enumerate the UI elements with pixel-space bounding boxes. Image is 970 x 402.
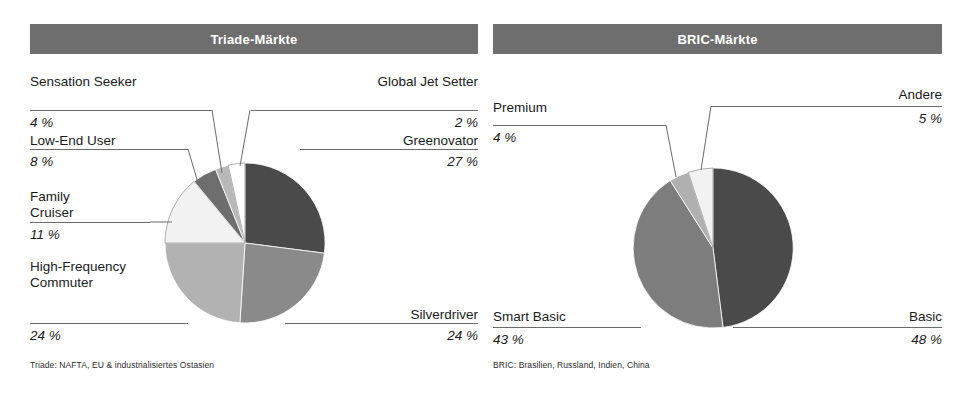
value-global-jet-setter: 2 %: [455, 113, 478, 131]
label-pct: 8 %: [30, 152, 53, 170]
label-name: Silverdriver: [410, 307, 478, 323]
pie-slice-silverdriver: [240, 243, 325, 323]
label-name: High-Frequency Commuter: [30, 259, 142, 290]
label-pct: 27 %: [447, 152, 478, 170]
value-silverdriver: 24 %: [447, 326, 478, 344]
value-andere: 5 %: [919, 109, 942, 127]
rule-high-frequency-commuter: [30, 323, 188, 324]
value-high-frequency-commuter: 24 %: [30, 326, 61, 344]
label-pct: 5 %: [919, 109, 942, 127]
label-andere: Andere: [898, 87, 942, 103]
rule-premium: [493, 125, 666, 126]
label-pct: 2 %: [455, 113, 478, 131]
label-name: Family Cruiser: [30, 189, 108, 220]
label-global-jet-setter: Global Jet Setter: [377, 74, 478, 90]
pie-svg-bric: [485, 0, 970, 402]
rule-low-end-user: [30, 149, 188, 150]
label-name: Premium: [493, 100, 547, 116]
rule-smart-basic: [493, 327, 641, 328]
label-high-frequency-commuter: High-Frequency Commuter: [30, 259, 142, 290]
label-name: Sensation Seeker: [30, 74, 137, 90]
value-premium: 4 %: [493, 128, 516, 146]
pie-chart-triade: Sensation Seeker 4 % Low-End User 8 % Fa…: [0, 0, 485, 402]
label-pct: 43 %: [493, 330, 524, 348]
rule-greenovator: [300, 149, 478, 150]
label-basic: Basic: [909, 309, 942, 325]
label-premium: Premium: [493, 100, 547, 116]
label-pct: 11 %: [30, 225, 60, 243]
value-low-end-user: 8 %: [30, 152, 53, 170]
value-family-cruiser: 11 %: [30, 225, 60, 243]
rule-family-cruiser: [30, 222, 150, 223]
rule-basic: [733, 327, 942, 328]
pie-slice-greenovator: [245, 163, 325, 253]
label-greenovator: Greenovator: [403, 133, 478, 149]
rule-sensation-seeker: [30, 110, 212, 111]
label-silverdriver: Silverdriver: [410, 307, 478, 323]
label-name: Greenovator: [403, 133, 478, 149]
label-family-cruiser: Family Cruiser: [30, 189, 108, 220]
leader-lines-bric: [666, 106, 711, 177]
footnote-triade: Triade: NAFTA, EU & industrialisiertes O…: [30, 360, 214, 370]
chart-panel-bric: BRIC-Märkte Premium 4 %: [485, 0, 970, 402]
label-pct: 48 %: [911, 330, 942, 348]
label-pct: 4 %: [30, 113, 53, 131]
pie-slice-basic: [713, 168, 793, 327]
label-pct: 4 %: [493, 128, 516, 146]
pie-slice-high-frequency-commuter: [165, 243, 245, 323]
value-sensation-seeker: 4 %: [30, 113, 53, 131]
rule-silverdriver: [285, 323, 478, 324]
label-name: Low-End User: [30, 133, 116, 149]
label-name: Andere: [898, 87, 942, 103]
pie-chart-bric: Premium 4 % Smart Basic 43 % Andere 5 % …: [485, 0, 970, 402]
label-name: Basic: [909, 309, 942, 325]
label-low-end-user: Low-End User: [30, 133, 116, 149]
chart-panel-triade: Triade-Märkte: [0, 0, 485, 402]
label-name: Global Jet Setter: [377, 74, 478, 90]
label-name: Smart Basic: [493, 309, 566, 325]
label-pct: 24 %: [447, 326, 478, 344]
value-basic: 48 %: [911, 330, 942, 348]
rule-andere: [711, 106, 942, 107]
label-pct: 24 %: [30, 326, 61, 344]
label-smart-basic: Smart Basic: [493, 309, 566, 325]
footnote-bric: BRIC: Brasilien, Russland, Indien, China: [493, 360, 650, 370]
value-smart-basic: 43 %: [493, 330, 524, 348]
value-greenovator: 27 %: [447, 152, 478, 170]
rule-global-jet-setter: [251, 110, 478, 111]
label-sensation-seeker: Sensation Seeker: [30, 74, 137, 90]
